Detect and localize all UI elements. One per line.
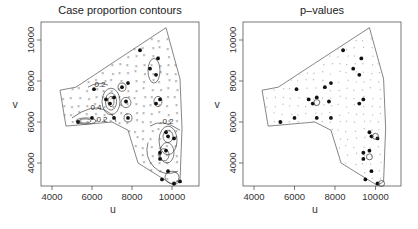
control-mark: ×	[136, 110, 139, 116]
control-mark: ×	[167, 94, 170, 100]
chart-title: p–values	[300, 4, 345, 16]
control-mark: ×	[152, 53, 155, 59]
control-point	[379, 72, 380, 73]
case-point	[361, 151, 365, 155]
control-point	[340, 95, 341, 96]
case-point	[341, 48, 345, 52]
case-point	[178, 180, 182, 184]
control-point	[380, 98, 381, 99]
control-mark: ×	[141, 145, 144, 151]
case-point	[158, 151, 162, 155]
control-point	[379, 106, 380, 107]
y-tick-label: 10000	[25, 27, 36, 53]
case-point	[359, 57, 363, 61]
control-point	[356, 137, 357, 138]
control-point	[337, 56, 338, 57]
control-point	[322, 71, 323, 72]
x-tick-label: 8000	[324, 191, 345, 202]
control-mark: ×	[144, 94, 147, 100]
control-point	[340, 121, 341, 122]
control-point	[289, 88, 290, 89]
control-mark: ×	[71, 119, 74, 125]
control-point	[371, 130, 372, 131]
control-mark: ×	[95, 94, 98, 100]
control-point	[378, 146, 379, 147]
control-point	[329, 55, 330, 56]
case-point	[361, 157, 365, 161]
control-point	[282, 104, 283, 105]
control-point	[346, 121, 347, 122]
contour-label: 0.4	[90, 103, 102, 112]
control-point	[330, 97, 331, 98]
control-point	[356, 114, 357, 115]
control-mark: ×	[63, 103, 66, 109]
control-point	[345, 131, 346, 132]
control-point	[364, 137, 365, 138]
control-point	[345, 72, 346, 73]
control-point	[380, 178, 381, 179]
control-point	[370, 79, 371, 80]
control-point	[315, 113, 316, 114]
control-point	[363, 114, 364, 115]
control-mark: ×	[143, 62, 146, 68]
control-point	[378, 129, 379, 130]
control-mark: ×	[70, 104, 73, 110]
control-point	[345, 98, 346, 99]
control-point	[289, 105, 290, 106]
control-point	[283, 88, 284, 89]
control-point	[372, 64, 373, 65]
control-point	[354, 122, 355, 123]
control-mark: ×	[141, 136, 144, 142]
control-mark: ×	[149, 102, 152, 108]
control-point	[273, 89, 274, 90]
control-point	[321, 113, 322, 114]
study-boundary	[262, 28, 386, 186]
control-mark: ×	[157, 126, 160, 132]
case-point	[363, 178, 367, 182]
y-tick-label: 4000	[25, 152, 36, 173]
control-mark: ×	[77, 85, 80, 91]
control-point	[354, 55, 355, 56]
case-point	[126, 81, 130, 85]
case-point	[172, 182, 176, 186]
case-point	[329, 81, 333, 85]
case-point	[158, 157, 162, 161]
control-mark: ×	[141, 119, 144, 125]
control-point	[346, 49, 347, 50]
control-mark: ×	[128, 128, 131, 134]
control-point	[362, 40, 363, 41]
control-mark: ×	[168, 77, 171, 83]
control-mark: ×	[160, 87, 163, 93]
control-point	[347, 139, 348, 140]
case-point	[278, 120, 282, 124]
control-point	[362, 89, 363, 90]
control-point	[298, 121, 299, 122]
control-point	[332, 63, 333, 64]
control-point	[363, 106, 364, 107]
case-point	[166, 169, 170, 173]
control-mark: ×	[174, 62, 177, 68]
control-point	[353, 104, 354, 105]
case-point	[368, 149, 372, 153]
case-point	[156, 57, 160, 61]
control-point	[289, 121, 290, 122]
control-point	[348, 112, 349, 113]
control-mark: ×	[135, 53, 138, 59]
control-mark: ×	[135, 88, 138, 94]
case-point	[160, 178, 164, 182]
case-point	[138, 48, 142, 52]
control-point	[370, 147, 371, 148]
control-point	[322, 80, 323, 81]
control-point	[299, 73, 300, 74]
control-mark: ×	[151, 87, 154, 93]
control-mark: ×	[150, 36, 153, 42]
control-mark: ×	[135, 101, 138, 107]
control-point	[323, 64, 324, 65]
control-point	[266, 98, 267, 99]
control-point	[346, 88, 347, 89]
control-point	[297, 105, 298, 106]
control-mark: ×	[143, 71, 146, 77]
control-point	[371, 47, 372, 48]
control-mark: ×	[111, 62, 114, 68]
control-mark: ×	[167, 85, 170, 91]
